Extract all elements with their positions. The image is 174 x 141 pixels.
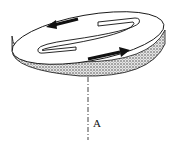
diagram-canvas: A [0, 0, 174, 141]
axis-label: A [93, 117, 101, 129]
disc-diagram [0, 0, 174, 141]
